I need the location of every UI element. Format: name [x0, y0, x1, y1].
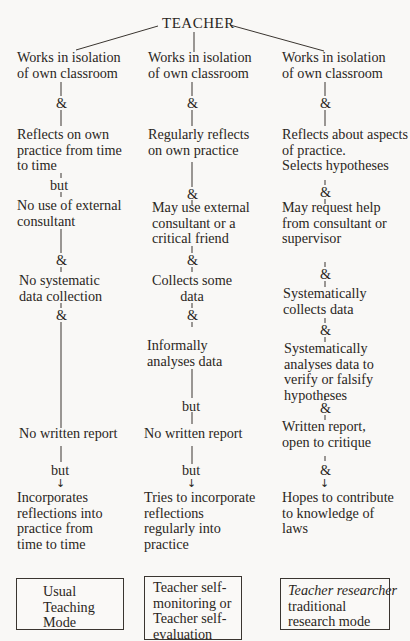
- connector-label: but: [182, 399, 200, 415]
- connector-label: &: [320, 96, 331, 112]
- mode-box-self-monitoring: Teacher self- monitoring or Teacher self…: [144, 576, 242, 640]
- step-node: Collects some data: [146, 273, 238, 304]
- step-node: Hopes to contribute to knowledge of laws: [282, 490, 394, 537]
- connector-label: &: [187, 253, 198, 269]
- connector-label: &: [56, 253, 67, 269]
- connector-label: &: [56, 96, 67, 112]
- step-node: Written report, open to critique: [282, 419, 371, 450]
- connector-label: &: [187, 308, 198, 324]
- step-node: No written report: [144, 426, 243, 442]
- step-node: Informally analyses data: [147, 338, 222, 369]
- mode-box-usual-teaching: Usual Teaching Mode: [16, 578, 124, 630]
- connector-label: but: [50, 178, 68, 194]
- connector-label: &: [187, 96, 198, 112]
- mode-box-label: Teacher self- monitoring or Teacher self…: [153, 580, 241, 641]
- step-node: Systematically analyses data to verify o…: [284, 341, 374, 403]
- step-node: May request help from consultant or supe…: [282, 200, 387, 247]
- connector-label: &: [56, 308, 67, 324]
- step-node: Systematically collects data: [283, 286, 367, 317]
- root-node-teacher: TEACHER: [162, 16, 235, 32]
- connector-label: &: [320, 401, 331, 417]
- step-node: May use external consultant or a critica…: [152, 200, 250, 247]
- arrow-down-icon: ↓: [187, 478, 196, 489]
- step-node: Reflects on own practice from time to ti…: [17, 127, 122, 174]
- mode-box-teacher-researcher: Teacher researcher traditional research …: [280, 578, 390, 630]
- arrow-down-icon: ↓: [320, 478, 329, 489]
- step-node: No systematic data collection: [19, 273, 102, 304]
- step-node: Regularly reflects on own practice: [148, 127, 249, 158]
- mode-box-label: traditional research mode: [288, 599, 389, 630]
- connector-label: &: [320, 323, 331, 339]
- step-node: Incorporates reflections into practice f…: [17, 490, 103, 552]
- mode-box-title: Teacher researcher: [288, 583, 389, 599]
- arrow-down-icon: ↓: [56, 478, 65, 489]
- step-node: Works in isolation of own classroom: [148, 50, 252, 81]
- step-node: Reflects about aspects of practice. Sele…: [282, 127, 408, 174]
- step-node: Tries to incorporate reflections regular…: [144, 490, 255, 552]
- connector-label: &: [320, 267, 331, 283]
- step-node: Works in isolation of own classroom: [282, 50, 386, 81]
- step-node: Works in isolation of own classroom: [17, 50, 121, 81]
- step-node: No written report: [19, 426, 118, 442]
- mode-box-label: Usual Teaching Mode: [43, 584, 123, 631]
- step-node: No use of external consultant: [17, 198, 121, 229]
